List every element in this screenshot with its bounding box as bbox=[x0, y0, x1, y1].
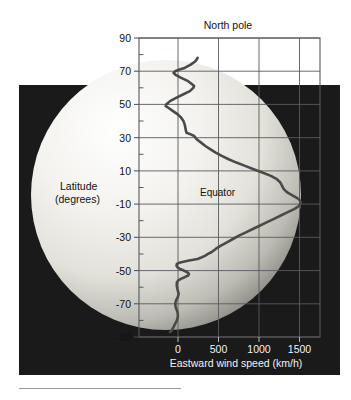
y-tick-label: 50 bbox=[119, 98, 131, 110]
x-tick-label: 1000 bbox=[247, 343, 271, 355]
x-tick-label: 1500 bbox=[288, 343, 312, 355]
equator-label: Equator bbox=[200, 187, 236, 198]
y-axis-title-line2: (degrees) bbox=[55, 193, 100, 205]
y-tick-label: -70 bbox=[116, 298, 131, 310]
page-footer-rule bbox=[19, 388, 181, 389]
x-tick-label: 0 bbox=[175, 343, 181, 355]
y-tick-label: 10 bbox=[119, 165, 131, 177]
x-tick-label: 500 bbox=[210, 343, 228, 355]
y-tick-label: -10 bbox=[116, 198, 131, 210]
x-axis-title: Eastward wind speed (km/h) bbox=[170, 357, 302, 369]
y-tick-label: 90 bbox=[119, 32, 131, 44]
y-axis-title-line1: Latitude bbox=[60, 180, 98, 192]
wind-speed-latitude-figure: North pole 90 70 50 30 10 -10 -30 -50 -7… bbox=[0, 0, 351, 400]
y-tick-label: -90 bbox=[116, 331, 131, 343]
figure-container: North pole 90 70 50 30 10 -10 -30 -50 -7… bbox=[0, 0, 351, 400]
y-tick-label: 70 bbox=[119, 65, 131, 77]
y-tick-label: -50 bbox=[116, 265, 131, 277]
y-axis-title: Latitude (degrees) bbox=[55, 180, 100, 205]
y-tick-label: -30 bbox=[116, 231, 131, 243]
y-tick-label: 30 bbox=[119, 132, 131, 144]
plot-title: North pole bbox=[204, 19, 253, 31]
